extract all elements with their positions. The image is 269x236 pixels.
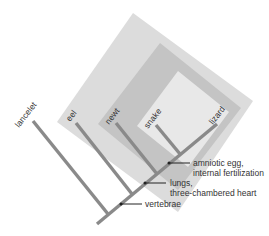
- node-lungs: [144, 182, 147, 185]
- trait-label-lungs-line2: three-chambered heart: [170, 188, 257, 198]
- trait-label-lungs-line1: lungs,: [170, 178, 193, 188]
- cladogram: lancelet eel newt snake lizard vertebrae…: [0, 0, 269, 236]
- trait-label-amniotic-line2: internal fertilization: [193, 168, 264, 178]
- node-vertebrae: [120, 203, 123, 206]
- trait-label-vertebrae: vertebrae: [145, 199, 181, 209]
- node-amniotic: [168, 162, 171, 165]
- trait-label-amniotic-line1: amniotic egg,: [193, 158, 244, 168]
